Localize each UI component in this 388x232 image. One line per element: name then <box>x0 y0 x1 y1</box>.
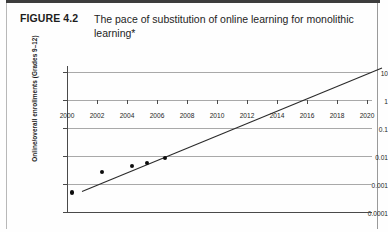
chart-plot-area: Online/overall enrollments (Grades 9–12)… <box>0 0 388 232</box>
data-point-2001 <box>70 190 74 194</box>
figure-container: FIGURE 4.2 The pace of substitution of o… <box>0 0 388 232</box>
trend-line <box>0 0 388 232</box>
figure-footnote <box>14 224 374 232</box>
